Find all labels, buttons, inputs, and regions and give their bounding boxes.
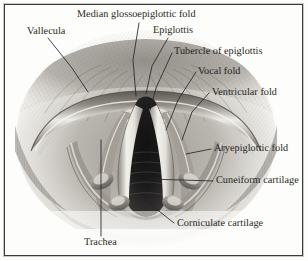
label-epiglottis: Epiglottis (153, 25, 193, 36)
label-trachea: Trachea (84, 237, 117, 248)
label-cuneiform-cartilage: Cuneiform cartilage (216, 175, 299, 186)
label-median-glossoepiglottic-fold: Median glossoepiglottic fold (77, 9, 196, 20)
label-vallecula: Vallecula (27, 26, 65, 37)
label-tubercle-of-epiglottis: Tubercle of epiglottis (174, 46, 262, 57)
figure-root: Median glossoepiglottic fold Vallecula E… (0, 0, 308, 261)
label-corniculate-cartilage: Corniculate cartilage (177, 218, 263, 229)
label-vocal-fold: Vocal fold (198, 66, 240, 77)
label-aryepiglottic-fold: Aryepiglottic fold (214, 143, 288, 154)
label-ventricular-fold: Ventricular fold (212, 87, 277, 98)
